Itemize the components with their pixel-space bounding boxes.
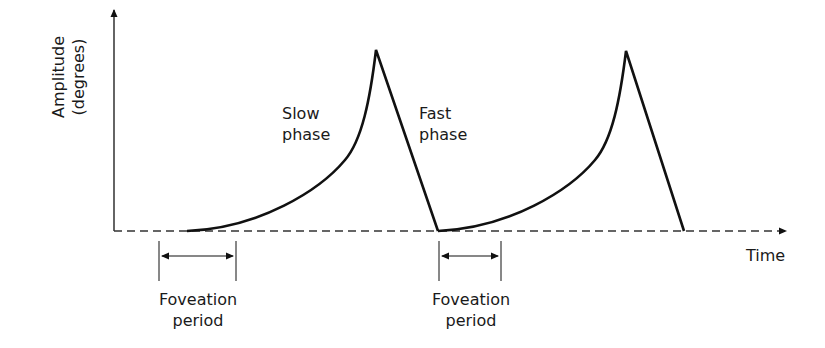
fast-phase-label: Fast phase	[419, 103, 467, 145]
slow-phase-label: Slow phase	[282, 103, 330, 145]
nystagmus-waveform-diagram	[0, 0, 825, 348]
foveation-1-line1: Foveation	[143, 289, 253, 310]
waveform-cycle-2	[438, 51, 684, 231]
y-axis-label-line2: (degrees)	[69, 22, 89, 132]
y-axis-label-line1: Amplitude	[49, 22, 69, 132]
slow-phase-line1: Slow	[282, 103, 330, 124]
fast-phase-line1: Fast	[419, 103, 467, 124]
x-axis-label: Time	[746, 245, 785, 266]
foveation-1-line2: period	[143, 310, 253, 331]
foveation-period-1-label: Foveation period	[143, 289, 253, 331]
slow-phase-line2: phase	[282, 124, 330, 145]
y-axis-label: Amplitude (degrees)	[49, 22, 89, 132]
foveation-2-line2: period	[416, 310, 526, 331]
fast-phase-line2: phase	[419, 124, 467, 145]
foveation-period-2-label: Foveation period	[416, 289, 526, 331]
foveation-2-line1: Foveation	[416, 289, 526, 310]
